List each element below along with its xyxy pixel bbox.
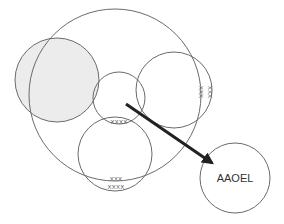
bottom-xxxx-label: XXXX <box>108 184 125 190</box>
right-xxx-label-2: XXX <box>207 86 213 99</box>
shaded-left-circle <box>15 38 99 122</box>
center-xxxx-label: XXXX <box>111 119 128 125</box>
bottom-xxx-label: XXX <box>110 176 123 182</box>
venn-diagram: XXX XXX XXXX XXX XXXX AAOEL <box>0 0 284 224</box>
target-label: AAOEL <box>217 172 254 184</box>
right-xxx-label-1: XXX <box>198 86 204 99</box>
